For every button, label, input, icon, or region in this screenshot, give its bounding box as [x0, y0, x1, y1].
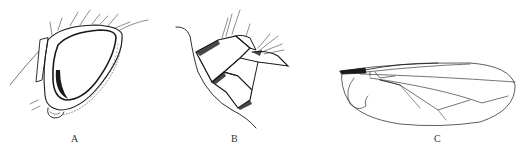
panel-b-terminalia-drawing	[160, 0, 335, 148]
panel-label-b: B	[231, 133, 238, 144]
panel-label-a: A	[71, 133, 78, 144]
panel-a-head-drawing	[0, 0, 175, 148]
panel-label-c: C	[434, 133, 441, 144]
panel-c-wing-drawing	[320, 0, 525, 148]
